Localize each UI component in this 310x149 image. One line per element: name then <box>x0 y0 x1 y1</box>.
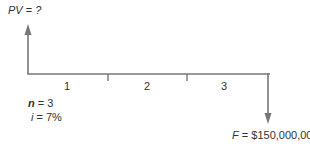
period-label-3: 3 <box>221 80 227 92</box>
f-label: F = $150,000,000 <box>232 129 310 141</box>
pv-label: PV = ? <box>8 4 41 16</box>
period-label-1: 1 <box>64 80 70 92</box>
period-label-2: 2 <box>144 80 150 92</box>
n-param: n = 3 <box>28 97 53 109</box>
f-arrowhead-icon <box>265 113 272 124</box>
i-param: i = 7% <box>31 111 62 123</box>
pv-arrowhead-icon <box>25 24 32 35</box>
timeline-graphic <box>0 0 310 149</box>
